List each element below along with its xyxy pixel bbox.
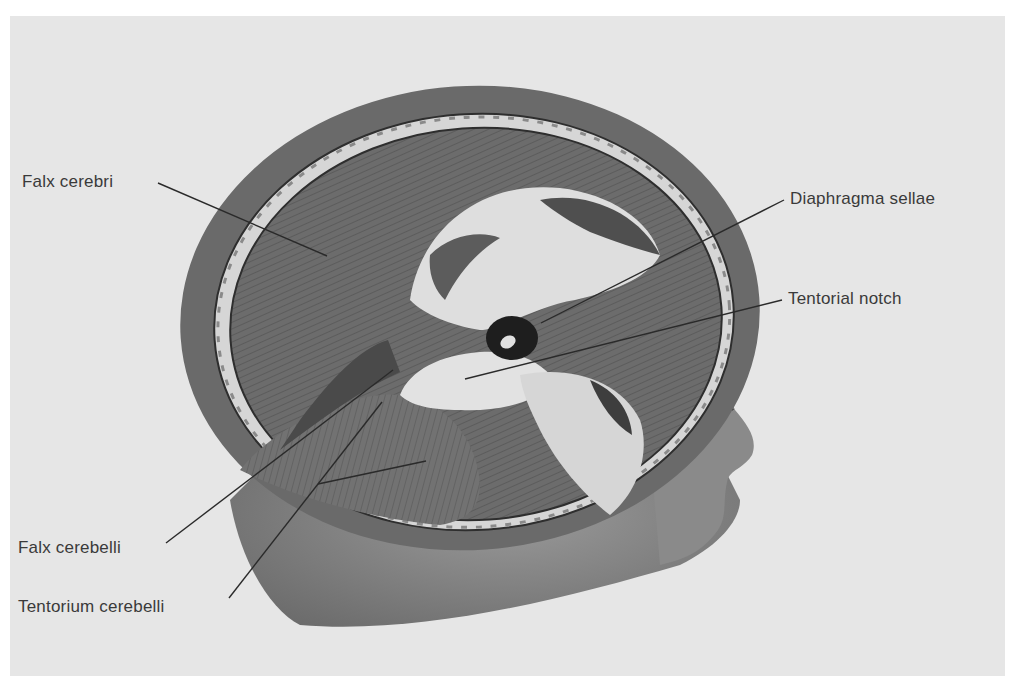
label-tentorial-notch: Tentorial notch bbox=[788, 289, 902, 309]
label-diaphragma-sellae: Diaphragma sellae bbox=[790, 189, 935, 209]
label-falx-cerebelli: Falx cerebelli bbox=[18, 538, 121, 558]
label-falx-cerebri: Falx cerebri bbox=[22, 172, 113, 192]
head-cutaway-illustration bbox=[0, 0, 1015, 692]
diaphragma-sellae-shape bbox=[486, 316, 538, 360]
label-tentorium-cerebelli: Tentorium cerebelli bbox=[18, 597, 164, 617]
